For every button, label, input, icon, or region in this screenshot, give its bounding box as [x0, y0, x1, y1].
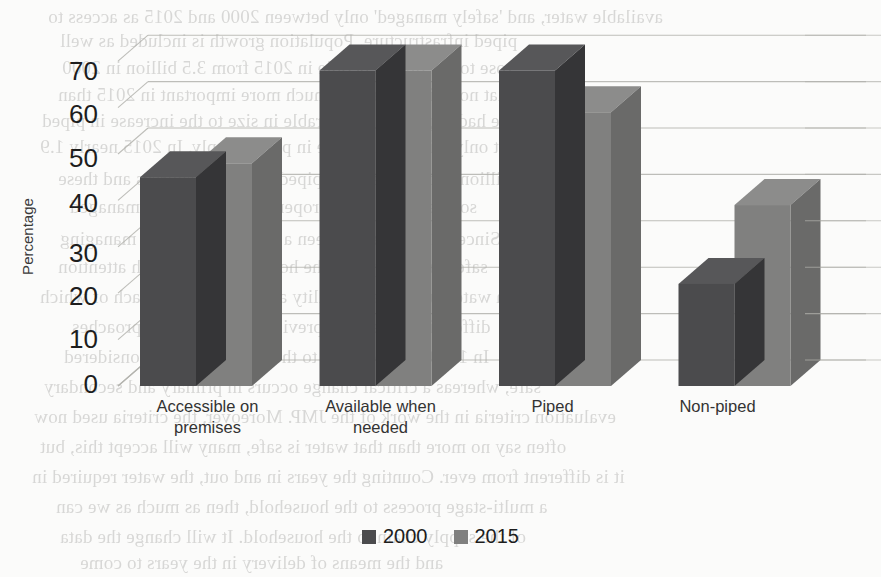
bar-front-face [499, 70, 555, 386]
bar-2000-3[interactable] [679, 258, 765, 386]
bar-side-face [555, 44, 585, 386]
y-tick-50: 50 [36, 145, 98, 171]
bar-side-face [432, 44, 462, 386]
gridline-side [118, 82, 148, 108]
chart-canvas [0, 0, 881, 577]
bar-side-face [196, 151, 226, 386]
y-tick-70: 70 [36, 58, 98, 84]
gridline-side [118, 35, 148, 61]
legend-label-2000: 2000 [383, 525, 428, 548]
bar-2000-1[interactable] [320, 44, 406, 386]
bar-chart-3d: Percentage 70 60 50 40 30 20 10 0 Access… [0, 0, 881, 577]
y-tick-30: 30 [36, 240, 98, 266]
legend-swatch-2015 [454, 530, 468, 544]
bar-side-face [791, 179, 821, 386]
bar-front-face [679, 284, 735, 386]
y-tick-10: 10 [36, 326, 98, 352]
y-tick-0: 0 [36, 371, 98, 397]
x-label-line-1: Non-piped [625, 396, 810, 417]
bar-side-face [252, 137, 282, 386]
legend-label-2015: 2015 [475, 525, 520, 548]
bar-side-face [376, 44, 406, 386]
x-label-line-1: Available when [288, 396, 473, 417]
x-label-available-when-needed: Available when needed [288, 396, 473, 438]
bar-2000-0[interactable] [140, 151, 226, 386]
x-label-piped: Piped [460, 396, 645, 417]
x-label-line-1: Accessible on [115, 396, 300, 417]
x-label-accessible-on-premises: Accessible on premises [115, 396, 300, 438]
legend-item-2000[interactable]: 2000 [362, 525, 428, 548]
y-axis-tick-labels: 70 60 50 40 30 20 10 0 [28, 0, 98, 577]
legend-swatch-2000 [362, 530, 376, 544]
x-label-line-2: needed [288, 417, 473, 438]
y-tick-60: 60 [36, 101, 98, 127]
bar-2000-2[interactable] [499, 44, 585, 386]
y-tick-20: 20 [36, 283, 98, 309]
gridline-side [118, 128, 148, 154]
legend-item-2015[interactable]: 2015 [454, 525, 520, 548]
x-label-line-2: premises [115, 417, 300, 438]
chart-legend: 2000 2015 [0, 525, 881, 548]
x-label-line-1: Piped [460, 396, 645, 417]
bar-front-face [320, 70, 376, 386]
x-label-non-piped: Non-piped [625, 396, 810, 417]
bar-front-face [140, 177, 196, 386]
plot-area: Percentage 70 60 50 40 30 20 10 0 Access… [0, 0, 881, 577]
y-tick-40: 40 [36, 190, 98, 216]
bar-side-face [611, 86, 641, 386]
